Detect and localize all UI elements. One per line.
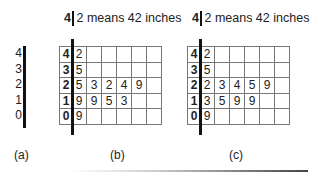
leaf-cell — [117, 47, 132, 63]
leaf-cell: 9 — [72, 109, 87, 125]
key-text: 2 means 42 inches — [204, 11, 309, 25]
leaf-cell: 5 — [102, 93, 117, 109]
leaf-cell — [87, 47, 102, 63]
leaf-cell — [230, 47, 245, 63]
leaf-cell — [132, 62, 147, 78]
leaf-cell: 5 — [245, 78, 260, 94]
leaf-cell: 9 — [87, 93, 102, 109]
panel-c-caption: (c) — [229, 148, 243, 162]
leaf-cell — [132, 93, 147, 109]
stem: 4 — [2, 46, 32, 62]
leaf-cell: 2 — [72, 47, 87, 63]
leaf-cell — [102, 47, 117, 63]
leaf-cell: 9 — [245, 93, 260, 109]
panel-b-grid: 4 2 3 5 2 5 3 2 4 9 1 9 9 5 3 0 9 — [59, 46, 162, 125]
leaf-cell: 5 — [72, 62, 87, 78]
leaf-cell: 9 — [260, 78, 275, 94]
leaf-cell: 9 — [132, 78, 147, 94]
stem: 2 — [2, 77, 32, 93]
bottom-rule — [70, 170, 308, 172]
panel-a-caption: (a) — [14, 148, 29, 162]
leaf-cell — [117, 109, 132, 125]
leaf-cell — [275, 62, 290, 78]
key-stem: 4 — [192, 11, 199, 25]
key-divider — [72, 11, 75, 26]
leaf-cell — [275, 109, 290, 125]
leaf-cell: 9 — [72, 93, 87, 109]
key-stem: 4 — [64, 11, 71, 25]
key-label-b: 4 2 means 42 inches — [64, 9, 181, 27]
table-row: 2 5 3 2 4 9 — [60, 78, 162, 94]
leaf-cell — [102, 109, 117, 125]
leaf-cell: 9 — [230, 93, 245, 109]
panel-c-grid: 4 2 3 5 2 2 3 4 5 9 1 3 5 9 9 0 9 — [187, 46, 290, 125]
leaf-cell: 4 — [230, 78, 245, 94]
table-row: 2 2 3 4 5 9 — [188, 78, 290, 94]
leaf-cell: 9 — [200, 109, 215, 125]
key-label-c: 4 2 means 42 inches — [192, 9, 309, 27]
key-divider — [200, 11, 203, 26]
leaf-cell — [87, 109, 102, 125]
leaf-cell — [132, 109, 147, 125]
table-row: 3 5 — [188, 62, 290, 78]
stem: 3 — [2, 62, 32, 78]
leaf-cell — [132, 47, 147, 63]
leaf-cell — [147, 93, 162, 109]
leaf-cell — [275, 93, 290, 109]
stem-divider-line — [23, 46, 26, 128]
table-row: 1 3 5 9 9 — [188, 93, 290, 109]
panel-b-caption: (b) — [110, 148, 125, 162]
stem: 0 — [2, 108, 32, 124]
stem-divider-line — [199, 39, 202, 135]
leaf-cell — [260, 93, 275, 109]
leaf-cell — [245, 47, 260, 63]
leaf-cell: 2 — [200, 78, 215, 94]
leaf-cell — [260, 47, 275, 63]
leaf-cell — [117, 62, 132, 78]
leaf-cell — [215, 47, 230, 63]
stem: 1 — [2, 93, 32, 109]
leaf-cell — [147, 47, 162, 63]
stem-divider-line — [71, 39, 74, 135]
leaf-cell — [102, 62, 117, 78]
leaf-cell: 2 — [200, 47, 215, 63]
leaf-cell: 2 — [102, 78, 117, 94]
leaf-cell: 3 — [87, 78, 102, 94]
leaf-cell: 5 — [72, 78, 87, 94]
leaf-cell: 5 — [200, 62, 215, 78]
leaf-cell — [260, 109, 275, 125]
leaf-cell — [215, 109, 230, 125]
leaf-cell — [230, 62, 245, 78]
panel-a-stems: 4 3 2 1 0 — [2, 46, 32, 124]
leaf-cell — [275, 47, 290, 63]
leaf-cell — [230, 109, 245, 125]
table-row: 4 2 — [188, 47, 290, 63]
table-row: 4 2 — [60, 47, 162, 63]
leaf-cell: 3 — [117, 93, 132, 109]
leaf-cell: 3 — [200, 93, 215, 109]
leaf-cell — [215, 62, 230, 78]
leaf-cell — [260, 62, 275, 78]
leaf-cell: 3 — [215, 78, 230, 94]
leaf-cell: 4 — [117, 78, 132, 94]
leaf-cell — [87, 62, 102, 78]
table-row: 0 9 — [60, 109, 162, 125]
leaf-cell: 5 — [215, 93, 230, 109]
leaf-cell — [245, 109, 260, 125]
leaf-cell — [147, 109, 162, 125]
leaf-cell — [147, 62, 162, 78]
leaf-cell — [275, 78, 290, 94]
leaf-cell — [147, 78, 162, 94]
key-text: 2 means 42 inches — [76, 11, 181, 25]
leaf-cell — [245, 62, 260, 78]
table-row: 0 9 — [188, 109, 290, 125]
table-row: 3 5 — [60, 62, 162, 78]
table-row: 1 9 9 5 3 — [60, 93, 162, 109]
